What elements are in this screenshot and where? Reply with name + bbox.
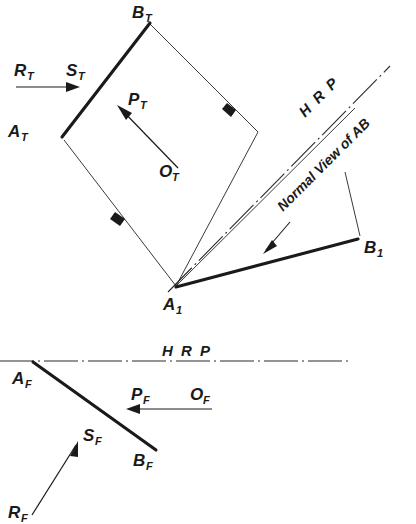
label-a1-main: A [162, 295, 175, 314]
label-pf-sub: F [143, 394, 150, 406]
label-af-sub: F [25, 378, 32, 390]
label-pt-main: P [128, 90, 140, 109]
label-b1-main: B [364, 238, 376, 257]
label-front-hrp: H R P [162, 342, 212, 359]
drawing-sheet: B T A T R T S T P T O T A 1 B 1 H R P No… [0, 0, 416, 524]
label-bt-main: B [132, 3, 144, 22]
geometry-drawing-canvas: B T A T R T S T P T O T A 1 B 1 H R P No… [0, 0, 416, 524]
label-rt-main: R [14, 61, 27, 80]
arrowhead-icon-upper-right-edge [222, 103, 236, 117]
auxiliary-view-line-a1b1 [176, 239, 358, 287]
top-view-line-ab [62, 23, 150, 137]
label-ot-sub: T [172, 171, 180, 183]
arrowhead-icon-note-leader [263, 240, 277, 254]
label-rt-sub: T [27, 70, 35, 82]
label-b1-sub: 1 [377, 247, 383, 259]
arrowhead-icon-st [66, 82, 80, 92]
label-a1-sub: 1 [176, 304, 182, 316]
top-view-edge-right-a1 [176, 132, 258, 286]
label-diagonal-hrp: H R P [295, 73, 342, 120]
arrowhead-icon-lower-left-edge [110, 212, 125, 226]
label-pt-sub: T [140, 99, 148, 111]
pt-arrow-shaft [120, 108, 178, 168]
label-of-main: O [190, 385, 203, 404]
label-sf-sub: F [95, 435, 102, 447]
label-sf-main: S [83, 426, 95, 445]
label-bt-sub: T [145, 12, 153, 24]
label-bf-sub: F [146, 460, 153, 472]
top-view-projector-to-b1 [345, 172, 360, 236]
label-st-main: S [66, 61, 78, 80]
label-rf-sub: F [21, 512, 28, 524]
label-ot-main: O [159, 162, 172, 181]
top-view-edge-bt-right [150, 24, 258, 132]
label-normal-view-of-ab: Normal View of AB [274, 115, 373, 214]
label-af-main: A [11, 369, 24, 388]
diagonal-hrp-chain-line [168, 66, 390, 292]
label-of-sub: F [203, 394, 210, 406]
label-at-main: A [7, 122, 20, 141]
label-st-sub: T [78, 70, 86, 82]
arrowhead-icon-sf [70, 441, 78, 457]
top-view-reference-line-a1-upper [176, 108, 355, 286]
label-at-sub: T [21, 131, 29, 143]
arrowhead-icon-pf [126, 404, 140, 414]
label-rf-main: R [8, 503, 21, 522]
rf-sf-arrow-shaft [32, 445, 76, 515]
label-bf-main: B [133, 451, 145, 470]
label-pf-main: P [131, 385, 143, 404]
